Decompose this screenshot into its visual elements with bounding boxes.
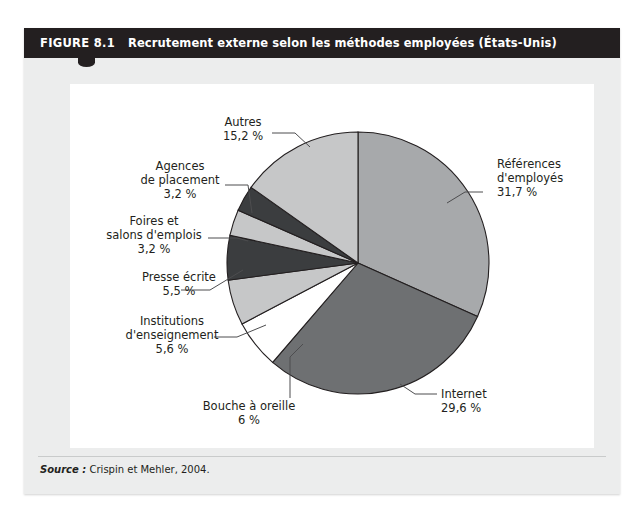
figure-panel: FIGURE 8.1 Recrutement externe selon les… bbox=[24, 28, 620, 494]
source-divider bbox=[38, 456, 606, 457]
figure-title: Recrutement externe selon les méthodes e… bbox=[128, 36, 557, 50]
figure-page: FIGURE 8.1 Recrutement externe selon les… bbox=[0, 0, 644, 512]
source-label: Source : bbox=[40, 464, 86, 475]
figure-title-bar: FIGURE 8.1 Recrutement externe selon les… bbox=[24, 28, 620, 58]
source-text: Crispin et Mehler, 2004. bbox=[90, 464, 210, 475]
figure-number-label: FIGURE 8.1 bbox=[40, 36, 115, 50]
source-line: Source : Crispin et Mehler, 2004. bbox=[40, 464, 210, 475]
chart-canvas bbox=[70, 84, 594, 448]
title-bar-tab-decoration bbox=[78, 58, 95, 67]
